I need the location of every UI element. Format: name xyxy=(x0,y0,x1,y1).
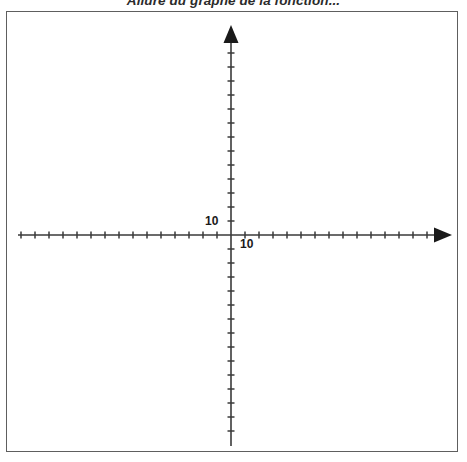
x-axis xyxy=(18,228,452,243)
x-axis-arrowhead-icon xyxy=(434,228,452,243)
figure-container: Allure du graphe de la fonction... 10 10 xyxy=(0,0,467,462)
x-axis-tick-label-10: 10 xyxy=(240,238,253,250)
y-axis-arrowhead-icon xyxy=(224,25,239,43)
y-axis-tick-label-10: 10 xyxy=(205,215,218,227)
axes-canvas xyxy=(0,0,467,462)
